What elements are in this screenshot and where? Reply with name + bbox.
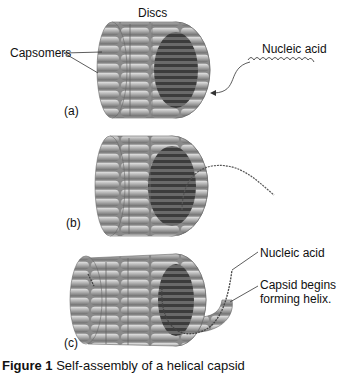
- nucleic-acid-label-a: Nucleic acid: [262, 42, 327, 56]
- capsomers-label: Capsomers: [10, 46, 71, 60]
- arrow-to-disc: [214, 62, 250, 93]
- panel-label-b: (b): [66, 216, 81, 230]
- capsid-disc-stack-c: [70, 254, 232, 346]
- figure-caption-text: Self-assembly of a helical capsid: [56, 358, 245, 373]
- capsid-helix-label-line1: Capsid begins: [260, 278, 336, 292]
- figure-caption: Figure 1 Self-assembly of a helical caps…: [2, 358, 245, 373]
- nucleic-acid-leader-c: [232, 252, 258, 270]
- capsid-leader-c: [230, 286, 258, 302]
- nucleic-acid-coil-a: [248, 58, 314, 63]
- nucleic-acid-label-c: Nucleic acid: [260, 246, 325, 260]
- capsid-helix-label-line2: forming helix.: [260, 292, 331, 306]
- discs-label: Discs: [138, 6, 167, 20]
- capsid-disc-stack-b: [95, 136, 208, 236]
- panel-label-a: (a): [64, 104, 79, 118]
- arrowhead: [210, 90, 216, 96]
- figure-number: Figure 1: [2, 358, 53, 373]
- capsid-disc-stack-a: [97, 22, 210, 118]
- panel-label-c: (c): [64, 336, 78, 350]
